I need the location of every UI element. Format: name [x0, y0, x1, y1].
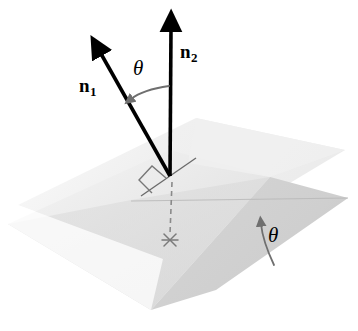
label-n1-base: n	[79, 75, 90, 96]
vector-n2	[170, 28, 171, 176]
label-theta-between-planes: θ	[268, 225, 278, 246]
label-vector-n1: n1	[79, 76, 97, 98]
normal-vectors-plane-diagram: n1 n2 θ θ	[0, 0, 358, 331]
theta-arc-between-normals	[131, 86, 169, 99]
label-vector-n2: n2	[180, 42, 198, 64]
label-n1-subscript: 1	[90, 84, 97, 99]
label-theta-between-normals: θ	[133, 58, 143, 79]
label-n2-base: n	[180, 41, 191, 62]
label-n2-subscript: 2	[191, 50, 198, 65]
diagram-canvas	[0, 0, 358, 331]
